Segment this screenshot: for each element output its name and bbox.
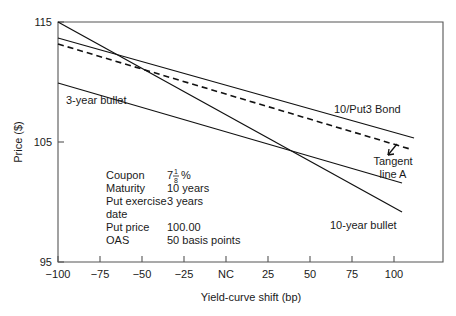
series-10-put3-bond bbox=[58, 38, 414, 138]
spec-value-coupon-whole: 7 bbox=[167, 169, 173, 181]
spec-label-maturity: Maturity bbox=[106, 182, 146, 194]
x-axis-ticks: −100 −75 −50 −25 NC 25 50 75 100 bbox=[46, 256, 404, 280]
spec-value-coupon-suffix: % bbox=[181, 169, 191, 181]
label-tangent-line-a: Tangent bbox=[373, 155, 412, 167]
spec-value-maturity: 10 years bbox=[167, 182, 210, 194]
y-tick-label-105: 105 bbox=[34, 136, 52, 148]
spec-label-put-price: Put price bbox=[106, 221, 149, 233]
label-10-year-bullet: 10-year bullet bbox=[330, 219, 397, 231]
spec-label-coupon: Coupon bbox=[106, 169, 145, 181]
x-tick-label-nc: NC bbox=[218, 268, 234, 280]
x-tick-label-m100: −100 bbox=[46, 268, 71, 280]
x-tick-label-25: 25 bbox=[262, 268, 274, 280]
spec-table: Coupon Maturity Put exercise date Put pr… bbox=[106, 168, 241, 246]
y-tick-label-115: 115 bbox=[34, 16, 52, 28]
y-tick-label-95: 95 bbox=[40, 256, 52, 268]
spec-label-put-exercise: Put exercise bbox=[106, 195, 167, 207]
x-tick-label-50: 50 bbox=[304, 268, 316, 280]
y-axis-title: Price ($) bbox=[12, 121, 24, 163]
y-axis-ticks: 115 105 95 bbox=[34, 16, 64, 268]
x-tick-label-m50: −50 bbox=[133, 268, 152, 280]
spec-value-put-exercise: 3 years bbox=[167, 195, 204, 207]
x-axis-title: Yield-curve shift (bp) bbox=[201, 291, 301, 303]
chart-svg: 115 105 95 −100 −75 −50 −25 NC 25 50 75 … bbox=[0, 0, 456, 316]
spec-value-put-price: 100.00 bbox=[167, 221, 201, 233]
tangent-leader-arrow bbox=[388, 144, 397, 155]
x-tick-label-m25: −25 bbox=[175, 268, 194, 280]
label-3-year-bullet: 3-year bullet bbox=[66, 94, 127, 106]
spec-label-date: date bbox=[106, 208, 127, 220]
price-yield-chart: 115 105 95 −100 −75 −50 −25 NC 25 50 75 … bbox=[0, 0, 456, 316]
x-tick-label-100: 100 bbox=[385, 268, 403, 280]
x-tick-label-m75: −75 bbox=[91, 268, 110, 280]
spec-value-oas: 50 basis points bbox=[167, 234, 241, 246]
label-10-put3-bond: 10/Put3 Bond bbox=[334, 103, 401, 115]
spec-value-coupon-numerator: 1 bbox=[174, 168, 178, 175]
spec-label-oas: OAS bbox=[106, 234, 129, 246]
x-tick-label-75: 75 bbox=[346, 268, 358, 280]
label-tangent-line-a-cont: line A bbox=[380, 168, 408, 180]
